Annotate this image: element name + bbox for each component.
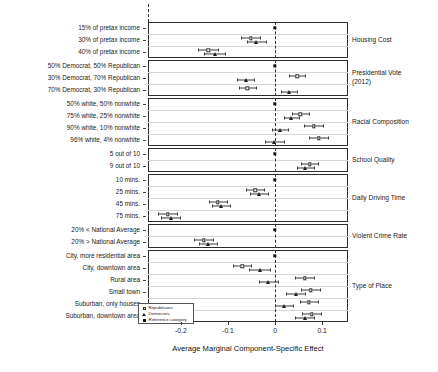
x-axis-tick-label: 0.1 [317, 327, 326, 334]
level-label: 75 mins. [116, 213, 140, 219]
level-label: 30% Democrat, 70% Republican [48, 75, 140, 81]
level-label: City, downtown area [83, 265, 140, 271]
ci-cap [218, 49, 219, 52]
democrats-point-marker [303, 166, 307, 170]
zero-line-extension [148, 4, 149, 22]
gridline [148, 134, 348, 135]
ci-cap [265, 140, 266, 143]
legend-marker [141, 307, 147, 310]
ci-cap [314, 277, 315, 280]
level-tick [143, 230, 146, 231]
legend-label: Republicans [149, 306, 173, 310]
group-label: Housing Cost [352, 36, 392, 45]
level-tick [143, 116, 146, 117]
gridline [148, 122, 348, 123]
ci-cap [293, 304, 294, 307]
ci-cap [251, 265, 252, 268]
level-label: 20% > National Average [71, 239, 140, 245]
republicans-point-marker [246, 87, 249, 90]
level-tick [143, 128, 146, 129]
legend-item: Reference category [141, 318, 191, 324]
ci-cap [318, 163, 319, 166]
ci-cap [299, 116, 300, 119]
democrats-point-marker [272, 140, 276, 144]
republicans-point-marker [317, 137, 320, 140]
ci-cap [246, 189, 247, 192]
legend-item: Democrats [141, 312, 191, 318]
x-axis-tick [322, 322, 323, 325]
ci-cap [288, 128, 289, 131]
gridline [148, 286, 348, 287]
ci-cap [256, 87, 257, 90]
gridline [148, 298, 348, 299]
level-tick [143, 268, 146, 269]
level-tick [143, 216, 146, 217]
ci-cap [321, 313, 322, 316]
ci-cap [305, 292, 306, 295]
ci-cap [266, 40, 267, 43]
x-axis-tick [275, 322, 276, 325]
zero-reference-line [275, 250, 276, 322]
level-label: 25 mins. [116, 189, 140, 195]
level-label: 10 mins. [116, 177, 140, 183]
ci-cap [320, 289, 321, 292]
ci-cap [301, 289, 302, 292]
ci-cap [249, 268, 250, 271]
ci-cap [161, 216, 162, 219]
level-label: 50% white, 50% nonwhite [67, 101, 140, 107]
ci-cap [281, 90, 282, 93]
republicans-point-marker [202, 239, 205, 242]
ci-cap [233, 265, 234, 268]
republicans-point-marker [249, 37, 252, 40]
level-label: 90% white, 10% nonwhite [67, 125, 140, 131]
ci-cap [250, 192, 251, 195]
level-tick [143, 180, 146, 181]
ci-cap [314, 316, 315, 319]
group-label: Daily Driving Time [352, 194, 405, 203]
ci-cap [230, 204, 231, 207]
level-label: 15% of pretax income [78, 25, 140, 31]
reference-point-marker [273, 64, 276, 67]
republicans-point-marker [310, 313, 313, 316]
level-label: 50% Democrat, 50% Republican [48, 63, 140, 69]
x-axis-tick-label: 0 [273, 327, 277, 334]
ci-cap [286, 292, 287, 295]
level-label: 5 out of 10 [110, 151, 140, 157]
republicans-point-marker [240, 265, 243, 268]
group-label: Type of Place [352, 282, 392, 291]
level-label-column: 15% of pretax income30% of pretax income… [0, 0, 146, 372]
group-label: Presidential Vote (2012) [352, 69, 402, 87]
x-axis-tick-label: -0.1 [222, 327, 234, 334]
level-label: 9 out of 10 [110, 163, 140, 169]
ci-cap [314, 166, 315, 169]
level-label: 40% of pretax income [78, 49, 140, 55]
reference-point-marker [273, 254, 276, 257]
ci-cap [304, 125, 305, 128]
ci-cap [239, 87, 240, 90]
ci-cap [241, 37, 242, 40]
democrats-point-marker [219, 204, 223, 208]
ci-cap [270, 268, 271, 271]
amce-chart: 15% of pretax income30% of pretax income… [0, 0, 438, 372]
ci-cap [289, 75, 290, 78]
level-tick [143, 40, 146, 41]
democrats-point-marker [289, 116, 293, 120]
level-tick [143, 204, 146, 205]
ci-cap [278, 280, 279, 283]
level-tick [143, 104, 146, 105]
democrats-point-marker [257, 192, 261, 196]
ci-cap [213, 239, 214, 242]
ci-cap [328, 137, 329, 140]
democrats-point-marker [287, 90, 291, 94]
reference-point-marker [273, 228, 276, 231]
x-axis-tick-label: -0.2 [175, 327, 187, 334]
democrats-point-marker [206, 242, 210, 246]
ci-cap [198, 49, 199, 52]
level-label: 96% white, 4% nonwhite [70, 137, 140, 143]
gridline [148, 160, 348, 161]
level-label: 45 mins. [116, 201, 140, 207]
ci-cap [284, 140, 285, 143]
level-label: 30% of pretax income [78, 37, 140, 43]
x-axis-title: Average Marginal Component-Specific Effe… [148, 344, 348, 353]
ci-cap [259, 280, 260, 283]
